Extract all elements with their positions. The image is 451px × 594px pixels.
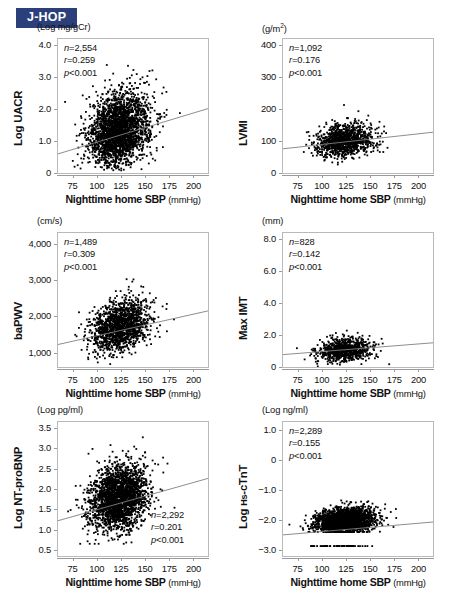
x-tick-label-maximt-5: 200 [402,374,434,385]
y-axis-title-bapwv: baPWV [12,302,24,340]
y-tick-label-ntprobnp-0: 0.5 [0,544,51,555]
y-tick-mark-hscTnT-1 [279,460,282,461]
y-tick-mark-maximt-0 [279,367,282,368]
y-tick-label-maximt-0: 0 [225,361,276,372]
y-tick-mark-lvmi-0 [279,173,282,174]
y-tick-mark-ntprobnp-6 [54,428,57,429]
y-tick-mark-bapwv-0 [54,353,57,354]
y-tick-label-maximt-2: 4.0 [225,297,276,308]
y-tick-label-lvmi-4: 400 [225,39,276,50]
scatter-panel-lvmi: (g/m2)n=1,092r=0.176p<0.0010100200300400… [225,22,451,212]
y-tick-label-lvmi-0: 0 [225,167,276,178]
stats-annotation-lvmi: n=1,092r=0.176p<0.001 [289,42,322,79]
stat-r-ntprobnp: r=0.201 [151,521,184,533]
y-tick-mark-maximt-1 [279,335,282,336]
stat-r-uacr: r=0.259 [64,54,97,66]
y-tick-label-bapwv-0: 1,000 [0,347,51,358]
y-tick-mark-uacr-0 [54,173,57,174]
x-axis-line-maximt [282,369,434,370]
stat-r-maximt: r=0.142 [289,248,322,260]
y-unit-label-lvmi: (g/m2) [262,22,287,34]
y-tick-mark-ntprobnp-3 [54,489,57,490]
y-tick-mark-uacr-4 [54,45,57,46]
x-tick-label-hscTnT-5: 200 [402,563,434,574]
y-tick-label-uacr-4: 4.0 [0,39,51,50]
y-tick-mark-lvmi-3 [279,77,282,78]
x-tick-label-uacr-5: 200 [177,180,209,191]
stat-p-bapwv: p<0.001 [64,261,97,273]
stat-n-uacr: n=2,554 [64,42,97,54]
stat-r-lvmi: r=0.176 [289,54,322,66]
x-axis-title-ntprobnp: Nighttime home SBP (mmHg) [57,576,209,588]
x-axis-title-maximt: Nighttime home SBP (mmHg) [282,387,434,399]
stats-annotation-bapwv: n=1,489r=0.309p<0.001 [64,236,97,273]
y-tick-label-uacr-1: 1.0 [0,135,51,146]
y-tick-mark-ntprobnp-0 [54,550,57,551]
y-axis-title-hscTnT: Log Hs-cTnT [237,465,249,529]
y-tick-label-hscTnT-4: −3.0 [225,544,276,555]
stats-annotation-maximt: n=828r=0.142p<0.001 [289,236,322,273]
y-tick-label-uacr-2: 2.0 [0,103,51,114]
y-tick-label-hscTnT-3: −2.0 [225,514,276,525]
y-tick-mark-uacr-1 [54,141,57,142]
y-tick-mark-lvmi-2 [279,109,282,110]
x-axis-line-ntprobnp [57,558,209,559]
y-axis-title-lvmi: LVMI [237,120,249,146]
y-tick-label-bapwv-2: 3,000 [0,274,51,285]
y-tick-mark-maximt-2 [279,303,282,304]
stat-p-lvmi: p<0.001 [289,67,322,79]
scatter-points-ntprobnp [58,422,208,556]
x-tick-label-lvmi-5: 200 [402,180,434,191]
x-axis-line-hscTnT [282,558,434,559]
stats-annotation-uacr: n=2,554r=0.259p<0.001 [64,42,97,79]
x-axis-line-bapwv [57,369,209,370]
y-tick-label-lvmi-2: 200 [225,103,276,114]
x-axis-line-uacr [57,175,209,176]
stat-p-maximt: p<0.001 [289,261,322,273]
y-tick-mark-ntprobnp-4 [54,469,57,470]
y-tick-mark-uacr-2 [54,109,57,110]
y-unit-label-ntprobnp: (Log pg/ml) [37,405,83,415]
x-tick-label-bapwv-5: 200 [177,374,209,385]
x-axis-title-lvmi: Nighttime home SBP (mmHg) [282,193,434,205]
stat-r-hscTnT: r=0.155 [289,437,322,449]
y-unit-label-hscTnT: (Log ng/ml) [262,405,308,415]
figure-root: J-HOP (Log mg/gCr)n=2,554r=0.259p<0.0010… [0,0,451,594]
y-tick-label-hscTnT-0: 1.0 [225,424,276,435]
stat-p-ntprobnp: p<0.001 [151,534,184,546]
stat-n-hscTnT: n=2,289 [289,425,322,437]
y-tick-label-ntprobnp-6: 3.5 [0,422,51,433]
y-axis-title-maximt: Max IMT [237,296,249,340]
y-unit-label-uacr: (Log mg/gCr) [37,22,91,32]
y-tick-mark-bapwv-2 [54,280,57,281]
y-tick-label-ntprobnp-2: 1.5 [0,503,51,514]
y-tick-label-uacr-0: 0 [0,167,51,178]
y-tick-mark-bapwv-3 [54,244,57,245]
y-tick-mark-ntprobnp-2 [54,509,57,510]
y-tick-label-maximt-3: 6.0 [225,265,276,276]
y-tick-label-maximt-1: 2.0 [225,329,276,340]
scatter-panel-ntprobnp: (Log pg/ml)n=2,292r=0.201p<0.0010.51.01.… [0,405,226,594]
stat-p-uacr: p<0.001 [64,67,97,79]
y-tick-mark-bapwv-1 [54,316,57,317]
y-tick-label-ntprobnp-4: 2.5 [0,463,51,474]
y-tick-label-hscTnT-1: 0 [225,454,276,465]
x-axis-title-hscTnT: Nighttime home SBP (mmHg) [282,576,434,588]
y-tick-label-ntprobnp-5: 3.0 [0,442,51,453]
scatter-panel-maximt: (mm)n=828r=0.142p<0.00102.04.06.08.07510… [225,216,451,406]
y-tick-label-bapwv-1: 2,000 [0,310,51,321]
stats-annotation-ntprobnp: n=2,292r=0.201p<0.001 [151,509,184,546]
scatter-panel-uacr: (Log mg/gCr)n=2,554r=0.259p<0.00101.02.0… [0,22,226,212]
y-tick-label-uacr-3: 3.0 [0,71,51,82]
scatter-panel-bapwv: (cm/s)n=1,489r=0.309p<0.0011,0002,0003,0… [0,216,226,406]
y-tick-label-bapwv-3: 4,000 [0,238,51,249]
y-tick-label-maximt-4: 8.0 [225,233,276,244]
y-unit-label-maximt: (mm) [262,216,283,226]
y-tick-label-lvmi-3: 300 [225,71,276,82]
y-tick-mark-ntprobnp-5 [54,448,57,449]
x-tick-label-ntprobnp-5: 200 [177,563,209,574]
stat-r-bapwv: r=0.309 [64,248,97,260]
y-tick-mark-maximt-4 [279,239,282,240]
stat-n-maximt: n=828 [289,236,322,248]
stat-n-bapwv: n=1,489 [64,236,97,248]
